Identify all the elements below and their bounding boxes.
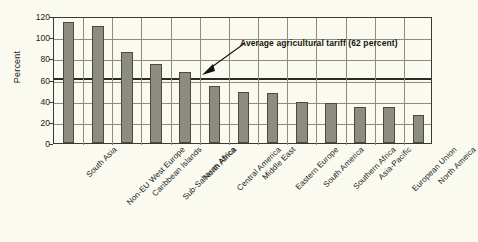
x-axis-tick-labels: South AsiaNon-EU West EuropeCaribbean Is… [53, 145, 432, 240]
plot-area [53, 17, 432, 144]
bar [354, 107, 366, 143]
bar [296, 102, 308, 143]
bar [150, 64, 162, 143]
bar [325, 103, 337, 143]
bar [179, 72, 191, 143]
category-separator [141, 18, 142, 145]
category-separator [200, 18, 201, 145]
bars-container [54, 18, 431, 143]
category-separator [83, 18, 84, 145]
x-tick-label: North Africa [202, 145, 239, 182]
y-tick-label-0: 0 [26, 140, 50, 149]
category-separator [171, 18, 172, 145]
average-tariff-annotation-label: Average agricultural tariff (62 percent) [240, 38, 398, 48]
bar [92, 26, 104, 143]
y-tick-label-100: 100 [26, 34, 50, 43]
bar [209, 86, 221, 143]
category-separator [112, 18, 113, 145]
y-tick-label-60: 60 [26, 77, 50, 86]
y-tick-label-20: 20 [26, 119, 50, 128]
bar [63, 22, 75, 143]
category-separator [229, 18, 230, 145]
y-tick-label-120: 120 [26, 13, 50, 22]
bar [383, 107, 395, 143]
y-axis-tick-labels: 020406080100120 [24, 0, 50, 242]
x-tick-label: South Asia [84, 145, 118, 179]
x-tick-label: Eastern Europe [293, 145, 340, 192]
bar [413, 115, 425, 143]
bar [121, 52, 133, 143]
y-tick-label-80: 80 [26, 55, 50, 64]
y-axis-title: Percent [12, 32, 22, 102]
bar [238, 92, 250, 143]
category-separator [404, 18, 405, 145]
bar [267, 93, 279, 143]
y-tick-label-40: 40 [26, 98, 50, 107]
